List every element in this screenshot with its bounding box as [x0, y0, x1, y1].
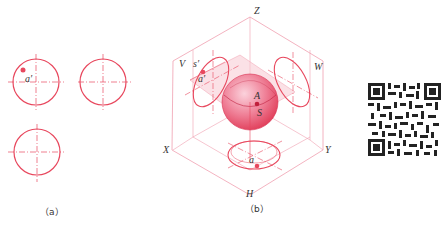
axis-y-label: Y [325, 144, 332, 155]
plane-v-label: V [179, 58, 187, 69]
top-view [8, 124, 64, 182]
front-view: a′ [8, 54, 64, 110]
axis-x-label: X [162, 144, 170, 155]
figure-a: a′ （a） [8, 54, 132, 217]
caption-a: （a） [40, 207, 64, 217]
axis-z-label: Z [254, 5, 260, 16]
diagram-canvas: a′ （a） [0, 0, 447, 228]
label-a: a [249, 154, 254, 165]
qr-code [368, 83, 441, 156]
point-a-prime [21, 68, 26, 73]
label-a-prime-3d: a′ [198, 73, 206, 84]
side-view [78, 54, 132, 110]
figure-b: Z V s′ a′ W A S X Y a H （b） [162, 5, 332, 214]
point-a [255, 164, 260, 169]
plane-w-label: W [314, 61, 324, 72]
caption-b: （b） [245, 204, 269, 214]
label-A: A [253, 90, 261, 101]
point-A [255, 102, 260, 107]
label-a-prime: a′ [25, 73, 33, 84]
label-S: S [257, 107, 262, 118]
label-s-prime: s′ [193, 58, 200, 69]
h-projection [228, 141, 282, 170]
plane-h-label: H [245, 188, 254, 199]
